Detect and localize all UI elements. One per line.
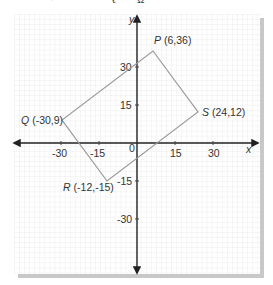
svg-text:Q(-30,9): Q(-30,9) xyxy=(21,114,63,126)
y-axis-label: y xyxy=(128,13,135,25)
origin-label: 0 xyxy=(129,142,135,154)
x-tick-label: -15 xyxy=(90,147,105,159)
coordinate-plane-figure: · ℓ Ω -30 -15 15 30 0 30 15 -15 -30 x y … xyxy=(0,0,273,285)
y-tick-label: -15 xyxy=(117,175,132,187)
x-tick-label: -30 xyxy=(52,147,67,159)
x-tick-label: 30 xyxy=(208,147,220,159)
vertex-label-S: S(24,12) xyxy=(202,106,245,118)
vertex-label-Q: Q(-30,9) xyxy=(21,114,63,126)
x-axis-label: x xyxy=(245,143,252,155)
svg-text:Ω: Ω xyxy=(137,0,145,5)
y-tick-label: 15 xyxy=(120,99,132,111)
svg-text:S(24,12): S(24,12) xyxy=(202,106,245,118)
top-cutoff-text: · ℓ Ω xyxy=(50,0,145,5)
y-tick-label: -30 xyxy=(117,213,132,225)
svg-text:P(6,36): P(6,36) xyxy=(154,34,191,46)
vertex-label-P: P(6,36) xyxy=(154,34,191,46)
svg-text:ℓ: ℓ xyxy=(112,0,116,5)
x-tick-label: 15 xyxy=(170,147,182,159)
svg-text:·: · xyxy=(50,0,53,5)
